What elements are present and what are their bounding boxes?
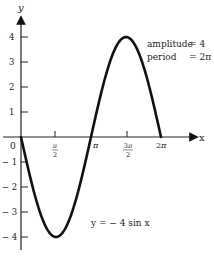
svg-text:π: π bbox=[92, 141, 99, 150]
svg-text:1: 1 bbox=[9, 107, 14, 117]
sine-graph: y x 4 3 2 1 − 1 − 2 − 3 − 4 0 π 2 π 3π bbox=[0, 0, 214, 256]
amplitude-label: amplitude bbox=[147, 39, 193, 49]
x-axis-label: x bbox=[199, 132, 205, 143]
equation-label: y = − 4 sin x bbox=[90, 218, 150, 228]
svg-text:3: 3 bbox=[9, 57, 14, 67]
svg-text:π: π bbox=[52, 142, 58, 150]
svg-text:3π: 3π bbox=[124, 142, 133, 150]
period-value: = 2π bbox=[189, 52, 211, 62]
annotation-box: amplitude = 4 period = 2π bbox=[147, 39, 211, 62]
amplitude-value: = 4 bbox=[189, 39, 205, 49]
svg-text:− 4: − 4 bbox=[2, 232, 17, 242]
svg-text:− 2: − 2 bbox=[2, 182, 17, 192]
svg-text:− 3: − 3 bbox=[2, 207, 17, 217]
svg-text:2: 2 bbox=[126, 151, 130, 159]
svg-text:− 1: − 1 bbox=[2, 157, 17, 167]
svg-text:0: 0 bbox=[10, 141, 16, 151]
period-label: period bbox=[147, 52, 177, 62]
svg-text:2: 2 bbox=[9, 82, 14, 92]
svg-text:2: 2 bbox=[53, 151, 57, 159]
svg-text:2π: 2π bbox=[156, 141, 167, 150]
y-axis-label: y bbox=[17, 2, 24, 13]
svg-text:4: 4 bbox=[9, 32, 14, 42]
